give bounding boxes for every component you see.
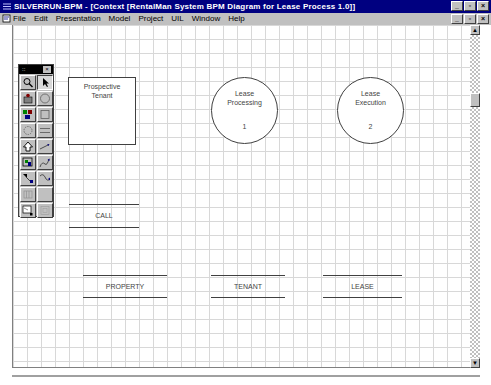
menu-file[interactable]: File — [13, 13, 26, 25]
down-arrow-icon: ▼ — [472, 360, 478, 366]
datastore-bottom-line — [83, 297, 167, 298]
external-entity-prospective-tenant[interactable]: Prospective Tenant — [68, 77, 136, 145]
vertical-scrollbar[interactable]: ▲ ▼ — [470, 25, 480, 368]
dashed-circle-icon — [22, 125, 34, 136]
datastore-lease[interactable]: LEASE — [323, 275, 402, 298]
doc-restore-button[interactable]: ▫ — [464, 14, 476, 24]
frame-icon — [39, 205, 51, 216]
square-tool[interactable] — [37, 107, 53, 122]
menu-edit[interactable]: Edit — [34, 13, 48, 25]
select-tool[interactable] — [37, 75, 53, 90]
document-icon[interactable] — [2, 14, 11, 23]
datastore-tool[interactable] — [37, 123, 53, 138]
datastore-icon — [39, 125, 51, 136]
datastore-label: LEASE — [323, 283, 402, 290]
datastore-label: PROPERTY — [83, 283, 167, 290]
note-icon — [22, 205, 34, 216]
tool-palette[interactable]: :: × — [18, 64, 54, 217]
blank-icon — [39, 189, 51, 200]
scroll-down-button[interactable]: ▼ — [470, 358, 480, 368]
menu-help[interactable]: Help — [228, 13, 244, 25]
datastore-call[interactable]: CALL — [69, 204, 139, 228]
entity-label: Prospective Tenant — [80, 82, 124, 100]
app-icon — [2, 2, 12, 11]
datastore-label: CALL — [69, 212, 139, 219]
loop-flow-tool[interactable] — [37, 171, 53, 186]
palette-close-button[interactable]: × — [43, 66, 51, 73]
doc-close-button[interactable]: × — [477, 14, 489, 24]
status-divider — [12, 375, 480, 377]
datastore-top-line — [323, 275, 402, 276]
link-tool[interactable] — [20, 171, 36, 186]
square-icon — [39, 109, 51, 120]
datastore-top-line — [211, 275, 285, 276]
grip-icon: :: — [22, 66, 25, 73]
up-arrow-icon — [22, 141, 34, 152]
note-tool[interactable] — [20, 203, 36, 218]
palette-titlebar[interactable]: :: × — [19, 65, 53, 74]
menu-presentation[interactable]: Presentation — [56, 13, 101, 25]
multi-entity-tool[interactable] — [20, 155, 36, 170]
disabled-tool-2[interactable] — [37, 187, 53, 202]
datastore-label: TENANT — [211, 283, 285, 290]
process-label: Lease Execution — [349, 89, 393, 107]
entity-group-icon — [22, 109, 34, 120]
doc-minimize-button[interactable]: _ — [451, 14, 463, 24]
datastore-top-line — [69, 204, 139, 205]
scroll-thumb[interactable] — [470, 93, 480, 107]
link-icon — [22, 173, 34, 184]
menu-model[interactable]: Model — [109, 13, 131, 25]
process-number: 1 — [212, 123, 277, 130]
datastore-bottom-line — [211, 297, 285, 298]
process-group-tool[interactable] — [20, 123, 36, 138]
zoom-tool[interactable] — [20, 75, 36, 90]
multi-entity-icon — [22, 157, 34, 168]
disabled-tool-3[interactable] — [37, 203, 53, 218]
menu-bar: File Edit Presentation Model Project UIL… — [0, 13, 491, 25]
flow-arrow-icon — [39, 141, 51, 152]
window-title: SILVERRUN-BPM - [Context [RentalMan Syst… — [14, 0, 355, 13]
title-bar: SILVERRUN-BPM - [Context [RentalMan Syst… — [0, 0, 491, 13]
disabled-tool-1[interactable] — [20, 187, 36, 202]
process-label: Lease Processing — [223, 89, 267, 107]
menu-uil[interactable]: UIL — [171, 13, 183, 25]
minimize-button[interactable]: _ — [451, 1, 463, 11]
flow-tool[interactable] — [37, 139, 53, 154]
entity-group-tool[interactable] — [20, 107, 36, 122]
up-arrow-icon: ▲ — [472, 27, 478, 33]
curved-flow-icon — [39, 157, 51, 168]
circle-icon — [39, 93, 51, 104]
maximize-button[interactable]: ▫ — [464, 1, 476, 11]
arrow-pointer-icon — [39, 77, 51, 88]
loop-flow-icon — [39, 173, 51, 184]
curved-flow-tool[interactable] — [37, 155, 53, 170]
entity-icon — [22, 93, 34, 104]
datastore-property[interactable]: PROPERTY — [83, 275, 167, 298]
close-button[interactable]: × — [477, 1, 489, 11]
process-number: 2 — [338, 123, 403, 130]
process-lease-processing[interactable]: Lease Processing 1 — [211, 77, 278, 144]
menu-window[interactable]: Window — [192, 13, 220, 25]
magnifier-icon — [22, 77, 34, 88]
datastore-bottom-line — [69, 227, 139, 228]
scroll-up-button[interactable]: ▲ — [470, 25, 480, 35]
columns-icon — [22, 189, 34, 200]
menu-project[interactable]: Project — [138, 13, 163, 25]
datastore-bottom-line — [323, 297, 402, 298]
process-lease-execution[interactable]: Lease Execution 2 — [337, 77, 404, 144]
datastore-tenant[interactable]: TENANT — [211, 275, 285, 298]
external-entity-tool[interactable] — [20, 91, 36, 106]
datastore-top-line — [83, 275, 167, 276]
up-arrow-tool[interactable] — [20, 139, 36, 154]
process-tool[interactable] — [37, 91, 53, 106]
